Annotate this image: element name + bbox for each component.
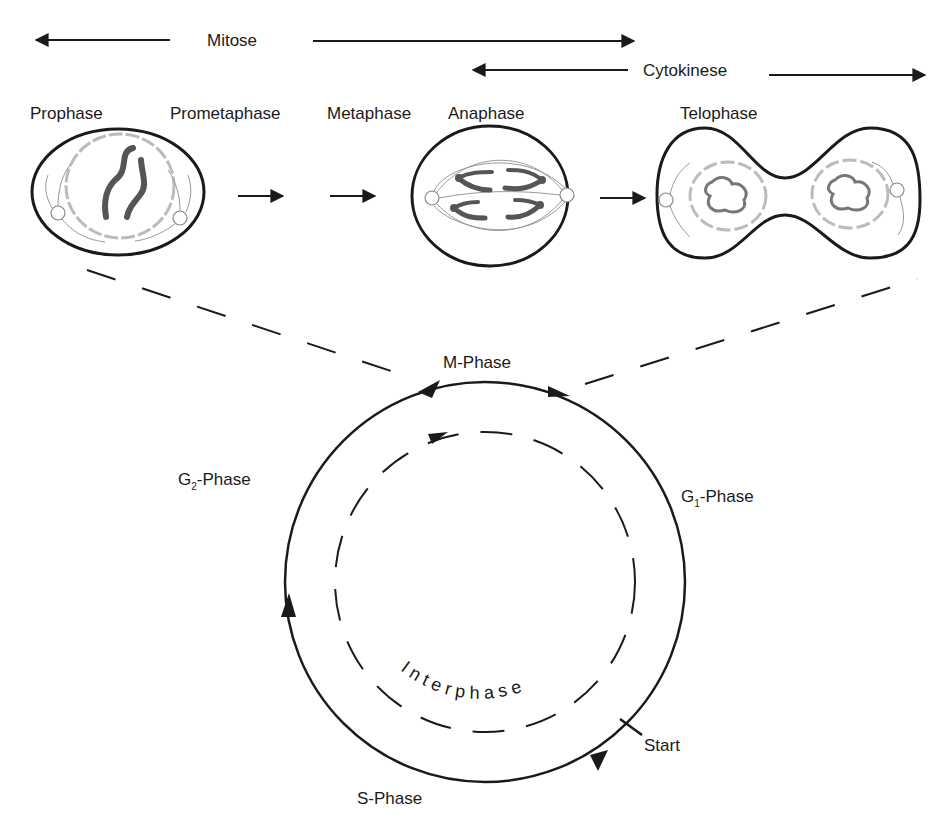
anaphase-cell-icon	[412, 126, 574, 266]
connector-dashed-right	[585, 279, 917, 384]
arrowhead-m-exit-icon	[548, 386, 570, 397]
phase-label-telophase: Telophase	[680, 105, 758, 122]
interphase-label: Interphase	[398, 657, 529, 703]
phase-label-prometaphase: Prometaphase	[170, 105, 281, 122]
arrowhead-g2-icon	[281, 593, 296, 617]
phase-label-prophase: Prophase	[30, 105, 103, 122]
prophase-cell-icon	[32, 129, 204, 255]
phase-label-anaphase: Anaphase	[448, 105, 525, 122]
g1-subscript: 1	[694, 498, 700, 509]
cytokinese-label: Cytokinese	[643, 62, 727, 79]
g2-suffix: -Phase	[197, 470, 251, 489]
telophase-cell-icon	[657, 128, 920, 258]
connector-dashed-left	[87, 270, 412, 378]
mitose-label: Mitose	[207, 32, 257, 49]
g2-phase-label: G2-Phase	[178, 471, 251, 488]
arrowhead-s-icon	[590, 750, 608, 771]
g2-subscript: 2	[191, 481, 197, 492]
start-label: Start	[644, 737, 680, 754]
cell-cycle-diagram: Interphase	[0, 0, 943, 828]
g2-prefix: G	[178, 470, 191, 489]
m-phase-label: M-Phase	[443, 354, 511, 371]
g1-prefix: G	[681, 487, 694, 506]
g1-phase-label: G1-Phase	[681, 488, 754, 505]
s-phase-label: S-Phase	[357, 790, 422, 807]
mitose-span-arrow	[36, 40, 634, 41]
g1-suffix: -Phase	[700, 487, 754, 506]
phase-label-metaphase: Metaphase	[327, 105, 411, 122]
